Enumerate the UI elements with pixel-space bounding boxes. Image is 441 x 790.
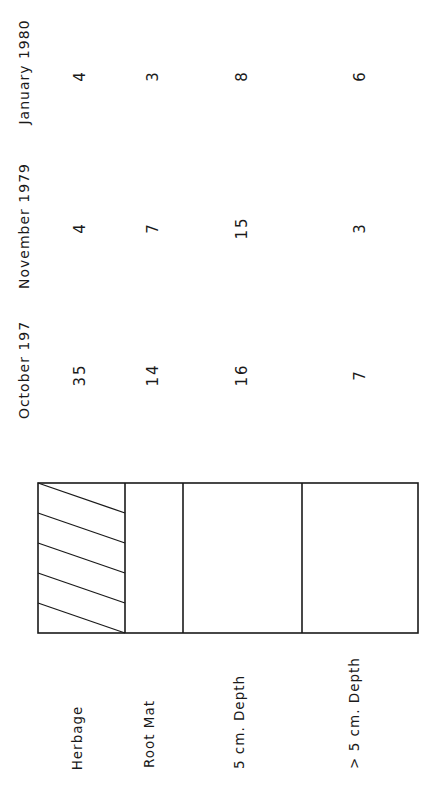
profile-outline [38, 483, 418, 633]
layer-label-root-mat: Root Mat [143, 700, 157, 768]
herbage-hatching [38, 483, 125, 633]
layer-label-gt5cm-depth: > 5 cm. Depth [348, 657, 362, 769]
layer-label-herbage: Herbage [71, 706, 85, 771]
soil-profile-diagram [0, 0, 441, 790]
layer-label-5cm-depth: 5 cm. Depth [233, 675, 247, 769]
